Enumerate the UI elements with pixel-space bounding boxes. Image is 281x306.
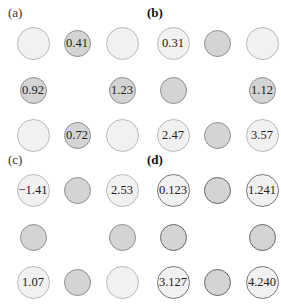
panel-d: (d)0.1231.2413.1274.240 <box>140 147 280 300</box>
dark-circle <box>249 224 276 251</box>
light-circle: 2.53 <box>106 174 139 207</box>
dark-circle <box>204 177 231 204</box>
panel-b: (b)0.311.122.473.57 <box>140 0 280 153</box>
light-circle: 1.07 <box>17 266 50 299</box>
light-circle: 4.240 <box>246 266 279 299</box>
dark-circle <box>20 224 47 251</box>
dark-circle: 1.23 <box>109 77 136 104</box>
light-circle <box>246 27 279 60</box>
panel-label: (b) <box>147 5 163 21</box>
dark-circle: 0.92 <box>20 77 47 104</box>
dark-circle <box>160 224 187 251</box>
panel-a: (a)0.410.921.230.72 <box>0 0 140 153</box>
light-circle: −1.41 <box>17 174 50 207</box>
dark-circle: 1.12 <box>249 77 276 104</box>
panel-label: (c) <box>8 152 22 168</box>
dark-circle <box>64 177 91 204</box>
panel-c: (c)−1.412.531.07 <box>0 147 140 300</box>
dark-circle <box>109 224 136 251</box>
light-circle: 3.127 <box>157 266 190 299</box>
panel-label: (d) <box>147 152 163 168</box>
dark-circle: 0.41 <box>64 30 91 57</box>
dark-circle <box>204 269 231 296</box>
light-circle <box>106 266 139 299</box>
dark-circle <box>204 122 231 149</box>
dark-circle <box>160 77 187 104</box>
light-circle <box>106 27 139 60</box>
panel-label: (a) <box>8 5 22 21</box>
dark-circle: 0.72 <box>64 122 91 149</box>
light-circle: 1.241 <box>246 174 279 207</box>
light-circle <box>17 27 50 60</box>
light-circle: 0.123 <box>157 174 190 207</box>
dark-circle <box>204 30 231 57</box>
light-circle: 0.31 <box>157 27 190 60</box>
dark-circle <box>64 269 91 296</box>
